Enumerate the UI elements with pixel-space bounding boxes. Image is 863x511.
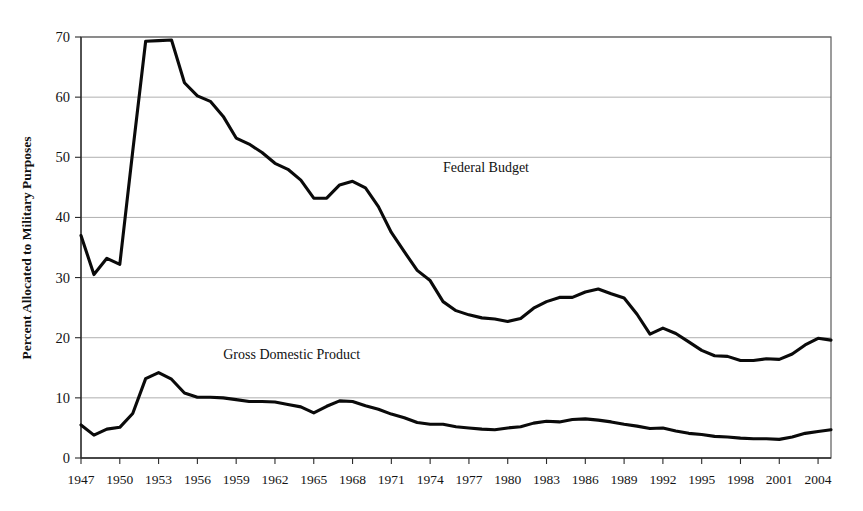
y-tick-label-0: 0	[63, 450, 70, 466]
x-tick-label-2001: 2001	[766, 472, 793, 487]
y-tick-label-60: 60	[56, 89, 71, 105]
series-label-gross-domestic-product: Gross Domestic Product	[223, 347, 360, 362]
x-tick-label-1962: 1962	[261, 472, 288, 487]
svg-text:Percent Allocated to Military: Percent Allocated to Military Purposes	[19, 136, 34, 359]
x-tick-label-1950: 1950	[106, 472, 133, 487]
x-tick-label-1968: 1968	[339, 472, 366, 487]
y-tick-label-50: 50	[56, 149, 71, 165]
y-tick-label-10: 10	[56, 390, 71, 406]
y-tick-label-70: 70	[56, 29, 71, 45]
y-tick-label-20: 20	[56, 330, 71, 346]
x-tick-marks	[81, 458, 818, 464]
x-tick-label-2004: 2004	[805, 472, 832, 487]
x-tick-label-1965: 1965	[300, 472, 327, 487]
y-tick-label-40: 40	[56, 209, 71, 225]
y-axis-title: Percent Allocated to Military Purposes	[19, 136, 34, 359]
series-label-federal-budget: Federal Budget	[443, 160, 529, 175]
military-spending-line-chart: 010203040506070 194719501953195619591962…	[0, 0, 863, 511]
y-tick-label-30: 30	[56, 270, 71, 286]
x-tick-label-1998: 1998	[727, 472, 754, 487]
x-tick-label-1995: 1995	[688, 472, 715, 487]
x-tick-label-1947: 1947	[68, 472, 95, 487]
x-tick-label-1986: 1986	[572, 472, 599, 487]
x-tick-label-1953: 1953	[145, 472, 172, 487]
x-tick-label-1959: 1959	[223, 472, 250, 487]
x-tick-label-1971: 1971	[378, 472, 405, 487]
x-tick-label-1956: 1956	[184, 472, 211, 487]
x-tick-label-1977: 1977	[455, 472, 482, 487]
x-tick-labels: 1947195019531956195919621965196819711974…	[68, 472, 832, 487]
x-tick-label-1992: 1992	[649, 472, 676, 487]
x-tick-label-1980: 1980	[494, 472, 521, 487]
x-tick-label-1989: 1989	[611, 472, 638, 487]
chart-page: 010203040506070 194719501953195619591962…	[0, 0, 863, 511]
y-tick-labels: 010203040506070	[56, 29, 71, 466]
x-tick-label-1974: 1974	[417, 472, 444, 487]
y-tick-marks	[75, 37, 81, 458]
x-tick-label-1983: 1983	[533, 472, 560, 487]
